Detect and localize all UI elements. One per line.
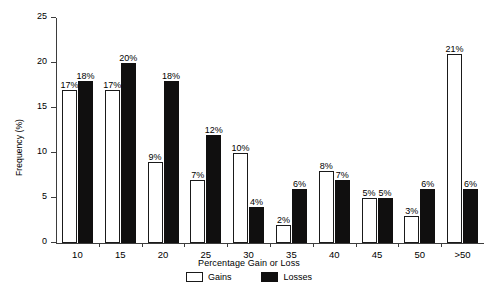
chart-legend: GainsLosses (0, 272, 498, 282)
bar-losses-20: 18% (164, 81, 179, 243)
legend-item-gains: Gains (186, 272, 232, 282)
y-axis-tick: 20 (51, 62, 56, 63)
bar-value-label: 21% (446, 44, 464, 54)
y-axis-tick: 5 (51, 197, 56, 198)
bar-losses-45: 5% (378, 198, 393, 243)
legend-swatch-losses (261, 272, 278, 282)
bar-value-label: 17% (60, 80, 78, 90)
bar-gains-gt50: 21% (447, 54, 462, 243)
bar-value-label: 3% (405, 206, 418, 216)
bar-losses-gt50: 6% (463, 189, 478, 243)
y-axis-tick-label: 20 (37, 56, 47, 67)
legend-item-losses: Losses (261, 272, 312, 282)
bar-gains-25: 7% (190, 180, 205, 243)
plot-area: 0510152025 17%18%17%20%9%18%7%12%10%4%2%… (56, 18, 484, 243)
bar-value-label: 12% (205, 125, 223, 135)
x-axis-tick (270, 243, 271, 247)
y-axis-tick-label: 5 (42, 191, 47, 202)
bar-value-label: 20% (119, 53, 137, 63)
bar-value-label: 18% (162, 71, 180, 81)
bar-value-label: 4% (250, 197, 263, 207)
y-axis-label: Frequency (%) (14, 162, 24, 176)
legend-label-losses: Losses (283, 272, 312, 282)
bar-losses-25: 12% (206, 135, 221, 243)
bar-losses-10: 18% (78, 81, 93, 243)
legend-swatch-gains (186, 272, 203, 282)
bar-losses-15: 20% (121, 63, 136, 243)
bar-value-label: 5% (378, 188, 391, 198)
x-axis-tick (227, 243, 228, 247)
x-axis-tick (398, 243, 399, 247)
bar-value-label: 18% (76, 71, 94, 81)
bar-value-label: 9% (148, 152, 161, 162)
bar-value-label: 7% (191, 170, 204, 180)
bar-losses-35: 6% (292, 189, 307, 243)
bar-gains-30: 10% (233, 153, 248, 243)
x-axis-tick (313, 243, 314, 247)
bar-value-label: 10% (232, 143, 250, 153)
legend-label-gains: Gains (208, 272, 232, 282)
y-axis-tick: 10 (51, 152, 56, 153)
bar-value-label: 6% (421, 179, 434, 189)
bar-losses-30: 4% (249, 207, 264, 243)
y-axis-tick-label: 25 (37, 11, 47, 22)
bar-gains-50: 3% (404, 216, 419, 243)
bar-value-label: 6% (293, 179, 306, 189)
x-axis-tick (142, 243, 143, 247)
x-axis-tick (99, 243, 100, 247)
bar-losses-50: 6% (420, 189, 435, 243)
y-axis-tick: 0 (51, 242, 56, 243)
y-axis-tick: 15 (51, 107, 56, 108)
bar-gains-40: 8% (319, 171, 334, 243)
y-axis-tick-label: 15 (37, 101, 47, 112)
bar-gains-15: 17% (105, 90, 120, 243)
x-axis-label: Percentage Gain or Loss (0, 258, 498, 268)
bar-value-label: 2% (277, 215, 290, 225)
bar-value-label: 8% (320, 161, 333, 171)
y-axis-line (56, 18, 57, 243)
x-axis-tick (356, 243, 357, 247)
bar-gains-45: 5% (362, 198, 377, 243)
bar-value-label: 7% (336, 170, 349, 180)
chart-figure: Frequency (%) 0510152025 17%18%17%20%9%1… (0, 0, 498, 295)
bar-losses-40: 7% (335, 180, 350, 243)
bar-value-label: 6% (464, 179, 477, 189)
x-axis-tick (441, 243, 442, 247)
bar-gains-20: 9% (148, 162, 163, 243)
bar-gains-10: 17% (62, 90, 77, 243)
y-axis-tick-label: 0 (42, 236, 47, 247)
x-axis-tick (184, 243, 185, 247)
bar-gains-35: 2% (276, 225, 291, 243)
bar-value-label: 17% (103, 80, 121, 90)
bar-value-label: 5% (362, 188, 375, 198)
y-axis-tick-label: 10 (37, 146, 47, 157)
y-axis-tick: 25 (51, 17, 56, 18)
